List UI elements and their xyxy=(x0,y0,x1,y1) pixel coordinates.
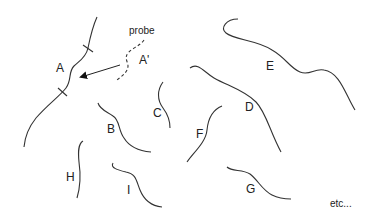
fragment-b: B xyxy=(98,103,151,152)
fragment-f: F xyxy=(187,106,222,162)
fragment-i-label: I xyxy=(127,183,130,197)
fragment-g: G xyxy=(227,167,291,199)
fragment-c: C xyxy=(153,82,170,128)
probe-label: probe xyxy=(129,25,155,36)
dna-fragment-diagram: A probe A' E D C B F H I xyxy=(0,0,375,217)
fragment-h: H xyxy=(66,141,83,198)
fragment-e: E xyxy=(224,19,355,110)
fragment-e-label: E xyxy=(266,59,274,73)
fragment-a-label: A xyxy=(56,61,64,75)
fragment-b-label: B xyxy=(107,122,115,136)
probe-a-prime: probe A' xyxy=(117,25,155,80)
hybridization-arrow xyxy=(81,65,120,77)
fragment-c-label: C xyxy=(153,106,162,120)
fragment-f-label: F xyxy=(196,127,203,141)
probe-strand-label: A' xyxy=(139,53,149,67)
fragment-g-label: G xyxy=(246,182,255,196)
etc-caption: etc... xyxy=(330,198,352,209)
fragment-i: I xyxy=(112,163,162,207)
fragment-h-label: H xyxy=(66,170,75,184)
fragment-d-label: D xyxy=(245,100,254,114)
fragment-a: A xyxy=(24,17,97,147)
